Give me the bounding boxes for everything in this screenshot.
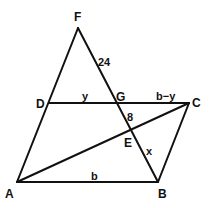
- measure-label-eb: x: [146, 145, 153, 157]
- vertex-label-c: C: [192, 96, 201, 110]
- vertex-label-a: A: [5, 187, 14, 201]
- measure-label-ab: b: [91, 170, 98, 182]
- vertex-label-b: B: [158, 187, 167, 201]
- vertex-label-f: F: [74, 10, 81, 24]
- measure-label-dg: y: [82, 90, 89, 102]
- measure-label-ge: 8: [127, 111, 133, 123]
- measure-label-gc: b−y: [156, 90, 176, 102]
- measure-label-fg: 24: [98, 56, 111, 68]
- vertex-label-g: G: [116, 90, 125, 104]
- vertex-label-d: D: [36, 97, 45, 111]
- vertex-label-e: E: [124, 136, 132, 150]
- segment-fb: [78, 28, 158, 182]
- geometry-diagram: F D G C E A B 24 y b−y 8 x b: [0, 0, 211, 208]
